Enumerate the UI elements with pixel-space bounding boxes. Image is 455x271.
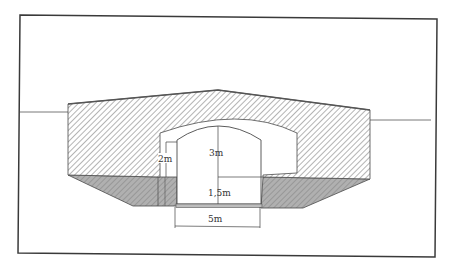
label-5m: 5m bbox=[208, 214, 223, 224]
label-2m: 2m bbox=[158, 154, 173, 164]
culvert-floor-slab bbox=[176, 204, 262, 208]
foundation-left bbox=[68, 175, 177, 206]
dimension-5m-line bbox=[175, 226, 260, 227]
label-3m: 3m bbox=[209, 148, 224, 158]
label-1-5m: 1,5m bbox=[208, 188, 231, 198]
culvert-cross-section-diagram: 3m 1,5m 2m 5m bbox=[0, 0, 455, 271]
foundation-right bbox=[261, 177, 370, 208]
